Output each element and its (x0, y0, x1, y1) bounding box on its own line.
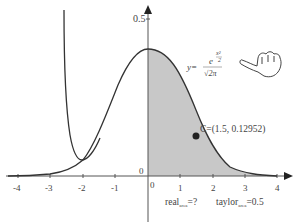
svg-text:2: 2 (218, 57, 221, 63)
svg-text:√2π: √2π (204, 69, 217, 78)
svg-text:e: e (209, 56, 213, 66)
x-tick-label: -4 (13, 183, 21, 193)
x-tick-label: -2 (78, 183, 86, 193)
x-tick-label: 3 (243, 183, 248, 193)
pointing-hand-icon (240, 52, 281, 77)
x-axis-arrow-icon (284, 172, 293, 180)
real-area-label: realarea=? (165, 197, 197, 208)
x-tick-label: -1 (111, 183, 119, 193)
point-c-label: C=(1.5, 0.12952) (200, 124, 266, 135)
svg-text:realarea=?: realarea=? (165, 197, 197, 208)
origin-label-below: 0 (150, 180, 155, 190)
svg-text:y=: y= (186, 62, 197, 72)
point-c (193, 133, 200, 140)
x-tick-label: 4 (275, 183, 280, 193)
y-tick-label-0-5: 0.5 (133, 13, 146, 24)
origin-label-left: 0 (139, 166, 144, 176)
x-tick-label: -3 (45, 183, 53, 193)
taylor-curve (64, 10, 100, 160)
formula: y= e x² 2 √2π (186, 50, 222, 78)
svg-text:x²: x² (215, 50, 221, 56)
normal-curve (8, 49, 277, 176)
chart-canvas: 0.5 0 0 -4 -3 -2 -1 1 2 3 4 y= e x² 2 √2… (0, 0, 303, 224)
taylor-area-label: taylorarea=0.5 (216, 197, 264, 208)
x-tick-label: 1 (178, 183, 183, 193)
svg-text:taylorarea=0.5: taylorarea=0.5 (216, 197, 264, 208)
x-tick-label: 2 (211, 183, 216, 193)
